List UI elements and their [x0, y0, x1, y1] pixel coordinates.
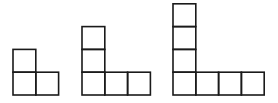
figure-1 — [13, 49, 59, 95]
square-cell — [13, 49, 36, 72]
square-cell — [173, 49, 196, 72]
square-cell — [196, 72, 219, 95]
square-cell — [173, 27, 196, 50]
square-cell — [219, 72, 242, 95]
l-shape-pattern-diagram — [0, 0, 278, 103]
square-cell — [13, 72, 36, 95]
square-cell — [173, 72, 196, 95]
square-cell — [36, 72, 59, 95]
square-cell — [82, 72, 105, 95]
square-cell — [82, 49, 105, 72]
square-cell — [173, 4, 196, 27]
figure-2 — [82, 27, 150, 95]
square-cell — [82, 27, 105, 50]
figure-3 — [173, 4, 264, 95]
square-cell — [128, 72, 151, 95]
square-cell — [241, 72, 264, 95]
square-cell — [105, 72, 128, 95]
